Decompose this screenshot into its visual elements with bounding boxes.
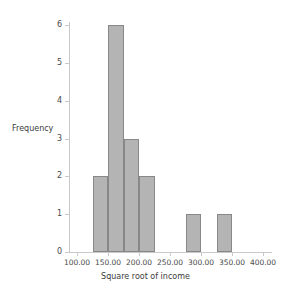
plot-area: 0123456 100.00150.00200.00250.00300.0035… bbox=[0, 0, 291, 305]
histogram-bar bbox=[217, 214, 233, 252]
histogram-bars bbox=[0, 0, 291, 305]
histogram-bar bbox=[124, 139, 140, 253]
histogram-bar bbox=[186, 214, 202, 252]
histogram-chart: 0123456 100.00150.00200.00250.00300.0035… bbox=[0, 0, 291, 305]
histogram-bar bbox=[108, 25, 124, 252]
x-axis-title: Square root of income bbox=[0, 272, 291, 282]
histogram-bar bbox=[93, 176, 109, 252]
y-axis-title: Frequency bbox=[12, 124, 53, 134]
histogram-bar bbox=[139, 176, 155, 252]
